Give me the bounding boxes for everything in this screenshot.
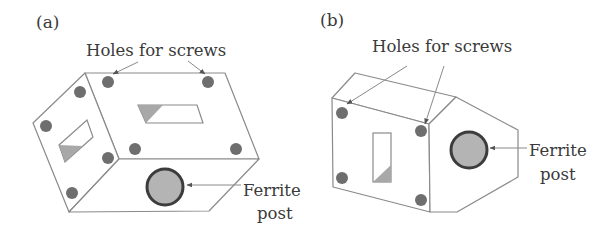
panel-a-ferrite-label-line2: post	[257, 204, 293, 223]
arrow-icon	[188, 61, 205, 74]
panel-b-front-slot	[373, 133, 391, 182]
screw-hole-icon	[336, 172, 348, 184]
panel-a: (a) Holes for screws	[33, 12, 301, 223]
screw-hole-icon	[74, 86, 86, 98]
screw-hole-icon	[202, 76, 214, 88]
panel-a-ferrite-label-line1: Ferrite	[243, 181, 301, 200]
panel-a-top-slot	[138, 105, 203, 123]
panel-b-ferrite-label-line2: post	[540, 165, 576, 184]
screw-hole-icon	[415, 125, 427, 137]
panel-a-label: (a)	[36, 12, 59, 32]
screw-hole-icon	[40, 120, 52, 132]
screw-hole-icon	[102, 152, 114, 164]
panel-b-ferrite-post	[451, 132, 487, 168]
screw-hole-icon	[230, 143, 242, 155]
screw-hole-icon	[415, 194, 427, 206]
panel-b: (b) Holes for screws Ferrite post	[320, 10, 587, 212]
panel-b-label: (b)	[320, 10, 344, 30]
panel-b-ferrite-label-line1: Ferrite	[529, 141, 587, 160]
panel-b-holes-label: Holes for screws	[372, 37, 512, 56]
screw-hole-icon	[336, 107, 348, 119]
screw-hole-icon	[129, 143, 141, 155]
panel-a-holes-label: Holes for screws	[86, 41, 226, 60]
screw-hole-icon	[102, 76, 114, 88]
arrow-icon	[113, 62, 138, 74]
waveguide-diagram: (a) Holes for screws	[0, 0, 614, 242]
panel-b-box	[332, 73, 518, 212]
panel-a-ferrite-post	[147, 169, 183, 205]
screw-hole-icon	[66, 187, 78, 199]
